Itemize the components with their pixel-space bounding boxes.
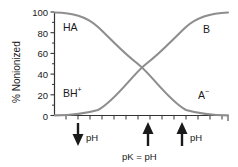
a-minus-curve-label: A− xyxy=(198,88,209,100)
y-axis-title: % Nonionized xyxy=(12,41,22,103)
center-pk-arrow xyxy=(143,122,154,146)
y-tick-label-80: 80 xyxy=(22,29,48,39)
ha-curve-label: HA xyxy=(63,22,78,33)
right-ph-arrow-label: pH xyxy=(190,133,202,143)
bh-plus-superscript: + xyxy=(78,86,82,93)
y-tick-label-40: 40 xyxy=(22,70,48,80)
y-tick-label-100: 100 xyxy=(22,8,48,18)
bh-plus-base: BH xyxy=(63,87,78,99)
x-axis-ticks xyxy=(66,116,228,122)
y-tick-label-60: 60 xyxy=(22,49,48,59)
y-tick-label-0: 0 xyxy=(22,112,48,122)
y-tick-label-20: 20 xyxy=(22,91,48,101)
left-ph-arrow-label: pH xyxy=(86,133,98,143)
bh-plus-curve-label: BH+ xyxy=(63,86,82,98)
left-ph-arrow xyxy=(73,123,84,146)
right-ph-arrow xyxy=(177,122,188,146)
chart-figure: % Nonionized 100 80 60 40 20 0 HA B BH+ … xyxy=(0,0,238,167)
b-curve-label: B xyxy=(203,24,210,35)
a-minus-superscript: − xyxy=(205,88,209,95)
a-minus-base: A xyxy=(198,89,205,101)
pk-equals-ph-label: pK = pH xyxy=(122,152,157,162)
